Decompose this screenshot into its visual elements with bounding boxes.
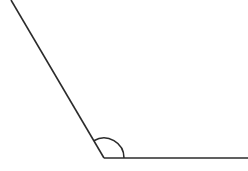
angle-diagram-svg bbox=[0, 0, 248, 171]
diagram-background bbox=[0, 0, 248, 171]
angle-diagram-canvas bbox=[0, 0, 248, 171]
